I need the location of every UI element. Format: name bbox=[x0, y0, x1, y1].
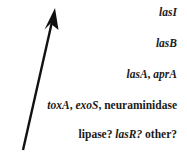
figure-line-2: lasB bbox=[156, 37, 177, 50]
gene-name-lasR: lasR? bbox=[115, 128, 142, 140]
gene-name-exoS: exoS bbox=[75, 99, 98, 111]
product-name-lipase: lipase? bbox=[79, 128, 113, 140]
figure-line-5: lipase? lasR? other? bbox=[79, 128, 177, 141]
gene-name-lasI: lasI bbox=[159, 6, 177, 18]
gene-name-lasA: lasA bbox=[127, 68, 148, 80]
figure-line-1: lasI bbox=[159, 6, 177, 19]
gene-name-toxA: toxA bbox=[47, 99, 69, 111]
gene-label-stack: lasI lasB lasA, aprA toxA, exoS, neurami… bbox=[0, 0, 183, 155]
figure-line-3: lasA, aprA bbox=[127, 68, 178, 81]
product-name-neuraminidase: neuraminidase bbox=[104, 99, 177, 111]
product-name-other: other? bbox=[145, 128, 177, 140]
figure-line-4: toxA, exoS, neuraminidase bbox=[47, 99, 177, 112]
gene-expression-gradient-figure: lasI lasB lasA, aprA toxA, exoS, neurami… bbox=[0, 0, 187, 155]
gene-name-lasB: lasB bbox=[156, 37, 177, 49]
gene-name-aprA: aprA bbox=[153, 68, 177, 80]
